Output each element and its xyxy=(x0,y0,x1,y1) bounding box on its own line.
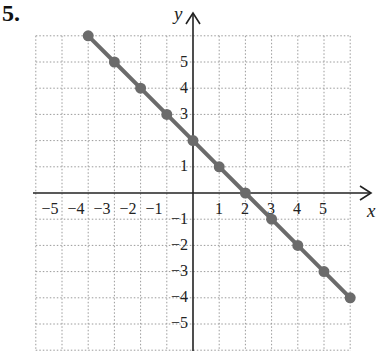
x-axis-label: x xyxy=(366,200,376,221)
data-point xyxy=(240,188,251,199)
svg-text:−3: −3 xyxy=(171,262,188,279)
svg-text:1: 1 xyxy=(180,157,188,174)
data-point xyxy=(109,57,120,68)
svg-text:−5: −5 xyxy=(41,200,58,217)
svg-text:4: 4 xyxy=(180,79,188,96)
svg-text:2: 2 xyxy=(241,200,249,217)
svg-text:−2: −2 xyxy=(119,200,136,217)
svg-text:−2: −2 xyxy=(171,236,188,253)
y-axis-label: y xyxy=(172,3,183,24)
svg-text:−4: −4 xyxy=(171,288,188,305)
data-point xyxy=(135,83,146,94)
data-point xyxy=(292,240,303,251)
data-point xyxy=(161,109,172,120)
coordinate-plane: x y −5 −4 −3 −2 −1 1 2 3 4 5 5 4 3 1 −1 … xyxy=(0,0,383,351)
svg-text:−5: −5 xyxy=(171,314,188,331)
data-point xyxy=(266,214,277,225)
svg-text:−3: −3 xyxy=(93,200,110,217)
data-point xyxy=(345,292,356,303)
axes xyxy=(33,13,371,351)
svg-text:1: 1 xyxy=(215,200,223,217)
svg-text:3: 3 xyxy=(180,105,188,122)
svg-text:5: 5 xyxy=(180,53,188,70)
svg-text:4: 4 xyxy=(293,200,301,217)
data-point xyxy=(83,30,94,41)
svg-text:−1: −1 xyxy=(171,210,188,227)
svg-text:5: 5 xyxy=(319,200,327,217)
data-point xyxy=(214,161,225,172)
svg-text:−1: −1 xyxy=(145,200,162,217)
data-point xyxy=(319,266,330,277)
y-tick-labels: 5 4 3 1 −1 −2 −3 −4 −5 xyxy=(171,53,188,331)
svg-text:−4: −4 xyxy=(67,200,84,217)
data-point xyxy=(188,135,199,146)
